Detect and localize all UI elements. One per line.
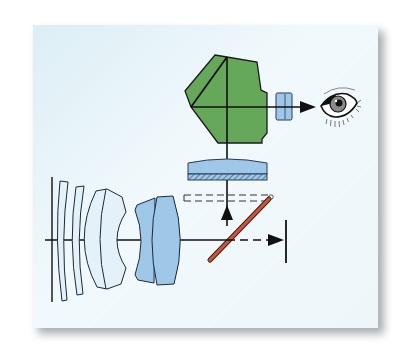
slr-optical-diagram xyxy=(0,0,404,353)
mirror-raised-outline xyxy=(184,195,273,201)
lens-element-3 xyxy=(84,189,126,289)
pentaprism xyxy=(185,55,267,143)
lens-element-5 xyxy=(152,196,180,285)
eye-icon xyxy=(321,88,361,127)
up-arrow-icon xyxy=(221,205,233,220)
reflex-mirror xyxy=(210,199,269,260)
lens-element-1 xyxy=(57,181,68,301)
arrow-to-film-icon xyxy=(268,234,284,246)
arrow-to-eye-icon xyxy=(300,101,316,113)
focusing-screen xyxy=(188,159,267,180)
